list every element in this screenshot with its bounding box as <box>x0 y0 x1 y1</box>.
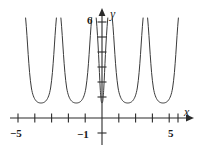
curve-branch-4 <box>112 18 143 103</box>
x-axis-label: x <box>184 106 189 118</box>
curve-branch-2 <box>61 18 92 103</box>
y-axis-arrow <box>99 8 106 16</box>
graph-figure: y x 6 −1 −5 5 <box>0 0 199 153</box>
y-tick-label-negative-1: −1 <box>77 129 89 140</box>
y-axis-label: y <box>110 8 115 20</box>
curve-branch-1 <box>26 18 57 103</box>
curve-branch-5 <box>148 18 179 103</box>
x-tick-label-5: 5 <box>168 128 174 139</box>
x-tick-label-negative-5: −5 <box>10 128 22 139</box>
y-tick-label-6: 6 <box>87 15 93 26</box>
